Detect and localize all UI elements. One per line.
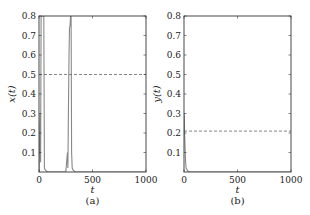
x-tick-label: 1000 (135, 175, 158, 185)
x-axis-label: t (235, 184, 240, 195)
data-series (39, 16, 146, 172)
y-tick-label: 0.3 (167, 109, 182, 119)
panel-caption: (a) (86, 195, 100, 206)
y-tick-label: 0.5 (22, 70, 37, 80)
y-tick-label: 0.4 (167, 89, 182, 99)
panel-a: 0.10.20.30.40.50.60.70.805001000tx(t)(a) (6, 11, 158, 206)
figure: 0.10.20.30.40.50.60.70.805001000tx(t)(a)… (0, 0, 310, 215)
y-axis-label: y(t) (151, 85, 162, 104)
y-tick-label: 0.1 (22, 148, 36, 158)
y-tick-label: 0.7 (22, 31, 37, 41)
axes-frame (184, 16, 291, 172)
data-series (184, 114, 291, 173)
x-tick-label: 0 (36, 175, 42, 185)
x-tick-label: 0 (181, 175, 187, 185)
plot-area (184, 114, 291, 173)
y-tick-label: 0.3 (22, 109, 37, 119)
y-tick-label: 0.6 (22, 50, 37, 60)
x-tick-label: 1000 (280, 175, 303, 185)
y-axis-label: x(t) (6, 85, 17, 103)
y-tick-label: 0.7 (167, 31, 182, 41)
y-tick-label: 0.1 (167, 148, 181, 158)
panel-caption: (b) (230, 195, 244, 206)
y-tick-label: 0.8 (22, 11, 37, 21)
x-axis-label: t (90, 184, 95, 195)
y-tick-label: 0.8 (167, 11, 182, 21)
plot-area (39, 16, 146, 172)
y-tick-label: 0.5 (167, 70, 182, 80)
panel-b: 0.10.20.30.40.50.60.70.805001000ty(t)(b) (151, 11, 303, 206)
y-tick-label: 0.6 (167, 50, 182, 60)
axes-frame (39, 16, 146, 172)
y-tick-label: 0.2 (167, 128, 181, 138)
y-tick-label: 0.2 (22, 128, 36, 138)
y-tick-label: 0.4 (22, 89, 37, 99)
